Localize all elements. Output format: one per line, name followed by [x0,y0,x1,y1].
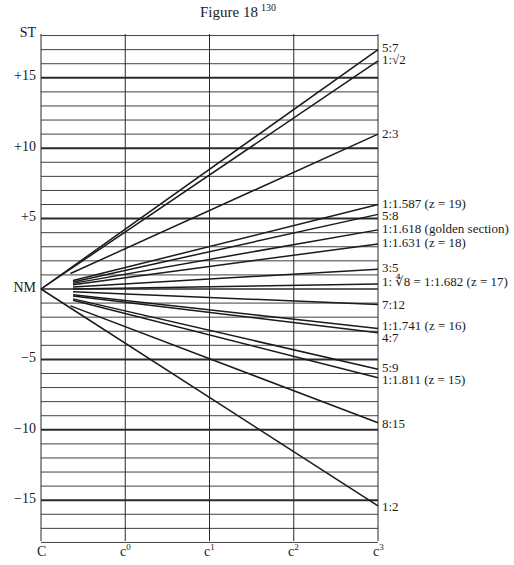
ratio-label: 1:1.811 (z = 15) [382,373,465,386]
ratio-label: 7:12 [382,298,405,311]
ratio-label: 3:5 [382,261,399,274]
y-label-st: ST [0,25,36,41]
y-label-minus5: −5 [0,350,36,366]
ratio-label: 1: ∜8 = 1:1.682 (z = 17) [382,275,508,288]
x-label-c2: c2 [288,542,299,560]
y-label-plus10: +10 [0,139,36,155]
ratio-label: 8:15 [382,417,405,430]
ratio-label: 1:2 [382,500,399,513]
ratio-label: 1:1.631 (z = 18) [382,236,466,249]
ratio-label: 1:1.618 (golden section) [382,222,509,235]
x-label-c3: c3 [373,542,384,560]
ratio-label: 2:3 [382,127,399,140]
ratio-label: 4:7 [382,331,399,344]
x-label-c: C [37,544,46,560]
x-label-c1: c1 [204,542,215,560]
y-label-minus10: −10 [0,421,36,437]
y-label-plus15: +15 [0,68,36,84]
y-label-nm: NM [0,280,36,296]
ratio-label: 1:√2 [382,53,406,66]
x-label-c0: c0 [120,542,131,560]
y-label-plus5: +5 [0,209,36,225]
y-label-minus15: −15 [0,491,36,507]
